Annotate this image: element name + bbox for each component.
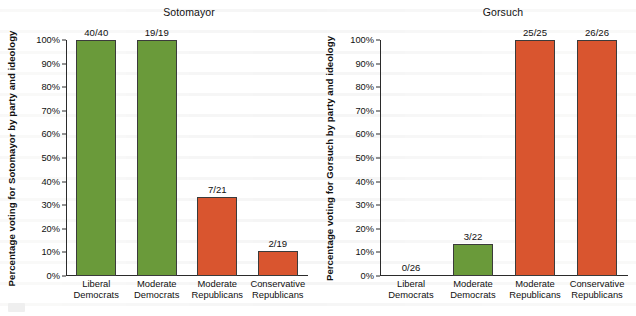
bar-gorsuch-3[interactable]: 26/26	[577, 40, 617, 276]
x-category-label-line-sotomayor-2-0: Moderate	[197, 278, 237, 289]
y-tick-label-gorsuch-90: 90%	[355, 59, 374, 69]
y-tick-label-sotomayor-10: 10%	[41, 247, 60, 257]
two-panel-bar-chart-figure: Sotomayor Percentage voting for Sotomayo…	[0, 0, 636, 316]
plot-area-sotomayor: 100%90%80%70%60%50%40%30%20%10%0% 40/401…	[66, 40, 308, 276]
y-axis-title-sotomayor: Percentage voting for Sotomayor by party…	[4, 36, 20, 280]
bar-slot-sotomayor-1: 19/19	[127, 40, 188, 276]
x-category-label-sotomayor-0: LiberalDemocrats	[66, 278, 127, 301]
x-category-label-sotomayor-2: ModerateRepublicans	[187, 278, 248, 301]
x-category-label-line-gorsuch-0-1: Democrats	[380, 289, 442, 300]
x-category-label-line-sotomayor-3-1: Republicans	[248, 289, 309, 300]
x-category-label-gorsuch-1: ModerateDemocrats	[442, 278, 504, 301]
x-category-label-line-gorsuch-3-0: Conservative	[570, 278, 625, 289]
bar-group-gorsuch: 0/263/2225/2526/26	[380, 40, 628, 276]
chart-panel-gorsuch: Gorsuch Percentage voting for Gorsuch by…	[318, 0, 636, 316]
bar-slot-gorsuch-1: 3/22	[442, 40, 504, 276]
y-tick-label-gorsuch-70: 70%	[355, 106, 374, 116]
x-category-label-gorsuch-0: LiberalDemocrats	[380, 278, 442, 301]
bar-slot-gorsuch-3: 26/26	[566, 40, 628, 276]
x-category-label-gorsuch-3: ConservativeRepublicans	[566, 278, 628, 301]
x-category-label-line-sotomayor-1-0: Moderate	[137, 278, 177, 289]
x-category-label-line-gorsuch-0-0: Liberal	[397, 278, 425, 289]
bar-sotomayor-0[interactable]: 40/40	[76, 40, 116, 276]
x-category-label-sotomayor-3: ConservativeRepublicans	[248, 278, 309, 301]
x-category-label-line-sotomayor-0-1: Democrats	[66, 289, 127, 300]
bar-value-label-gorsuch-3: 26/26	[585, 27, 609, 38]
x-category-label-line-sotomayor-3-0: Conservative	[250, 278, 305, 289]
x-category-label-line-gorsuch-2-0: Moderate	[515, 278, 555, 289]
bar-slot-gorsuch-2: 25/25	[504, 40, 566, 276]
bar-slot-sotomayor-0: 40/40	[66, 40, 127, 276]
chart-title-gorsuch: Gorsuch	[318, 6, 636, 18]
y-tick-label-sotomayor-20: 20%	[41, 224, 60, 234]
x-category-label-line-gorsuch-3-1: Republicans	[566, 289, 628, 300]
y-axis-title-text-gorsuch: Percentage voting for Gorsuch by party a…	[325, 35, 336, 280]
y-tick-label-sotomayor-60: 60%	[41, 129, 60, 139]
y-tick-label-gorsuch-20: 20%	[355, 224, 374, 234]
plot-area-gorsuch: 100%90%80%70%60%50%40%30%20%10%0% 0/263/…	[380, 40, 628, 276]
y-tick-label-gorsuch-0: 0%	[361, 271, 374, 281]
chart-panel-sotomayor: Sotomayor Percentage voting for Sotomayo…	[0, 0, 318, 316]
x-category-label-line-sotomayor-0-0: Liberal	[82, 278, 110, 289]
y-tick-label-sotomayor-50: 50%	[41, 153, 60, 163]
bar-slot-gorsuch-0: 0/26	[380, 40, 442, 276]
x-category-label-line-gorsuch-1-0: Moderate	[453, 278, 493, 289]
y-tick-label-sotomayor-80: 80%	[41, 82, 60, 92]
bar-sotomayor-1[interactable]: 19/19	[137, 40, 177, 276]
x-category-label-sotomayor-1: ModerateDemocrats	[127, 278, 188, 301]
bar-sotomayor-2[interactable]: 7/21	[197, 197, 237, 276]
bar-group-sotomayor: 40/4019/197/212/19	[66, 40, 308, 276]
scan-edge-artifact	[8, 303, 25, 312]
bar-sotomayor-3[interactable]: 2/19	[258, 251, 298, 276]
y-tick-label-gorsuch-50: 50%	[355, 153, 374, 163]
chart-title-sotomayor: Sotomayor	[0, 6, 348, 18]
bar-value-label-gorsuch-1: 3/22	[464, 231, 483, 242]
bar-value-label-gorsuch-0: 0/26	[402, 262, 421, 273]
x-axis-category-labels-sotomayor: LiberalDemocratsModerateDemocratsModerat…	[66, 278, 308, 301]
y-tick-label-gorsuch-30: 30%	[355, 200, 374, 210]
y-axis-title-text-sotomayor: Percentage voting for Sotomayor by party…	[7, 30, 18, 286]
bar-slot-sotomayor-3: 2/19	[248, 40, 309, 276]
bar-value-label-sotomayor-3: 2/19	[268, 238, 287, 249]
x-category-label-line-gorsuch-1-1: Democrats	[442, 289, 504, 300]
y-tick-label-gorsuch-100: 100%	[350, 35, 374, 45]
x-category-label-gorsuch-2: ModerateRepublicans	[504, 278, 566, 301]
bar-gorsuch-1[interactable]: 3/22	[453, 244, 493, 276]
bar-value-label-gorsuch-2: 25/25	[523, 27, 547, 38]
x-axis-category-labels-gorsuch: LiberalDemocratsModerateDemocratsModerat…	[380, 278, 628, 301]
y-tick-label-sotomayor-30: 30%	[41, 200, 60, 210]
y-tick-label-sotomayor-40: 40%	[41, 177, 60, 187]
x-category-label-line-sotomayor-1-1: Democrats	[127, 289, 188, 300]
bar-value-label-sotomayor-1: 19/19	[145, 27, 169, 38]
bar-gorsuch-2[interactable]: 25/25	[515, 40, 555, 276]
y-axis-title-gorsuch: Percentage voting for Gorsuch by party a…	[322, 36, 338, 280]
y-tick-label-sotomayor-90: 90%	[41, 59, 60, 69]
y-tick-label-gorsuch-60: 60%	[355, 129, 374, 139]
y-tick-label-sotomayor-0: 0%	[47, 271, 60, 281]
y-tick-label-gorsuch-10: 10%	[355, 247, 374, 257]
bar-slot-sotomayor-2: 7/21	[187, 40, 248, 276]
y-tick-label-gorsuch-80: 80%	[355, 82, 374, 92]
x-category-label-line-gorsuch-2-1: Republicans	[504, 289, 566, 300]
y-tick-label-gorsuch-40: 40%	[355, 177, 374, 187]
x-category-label-line-sotomayor-2-1: Republicans	[187, 289, 248, 300]
bar-value-label-sotomayor-0: 40/40	[84, 27, 108, 38]
bar-value-label-sotomayor-2: 7/21	[208, 184, 227, 195]
y-tick-label-sotomayor-100: 100%	[36, 35, 60, 45]
y-tick-label-sotomayor-70: 70%	[41, 106, 60, 116]
